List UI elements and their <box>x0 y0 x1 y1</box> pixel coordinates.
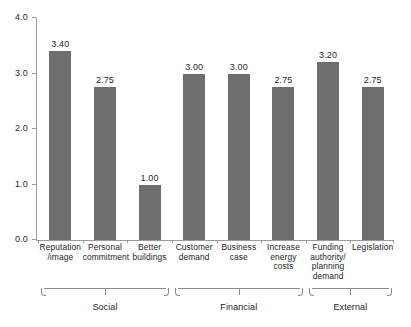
bar-value-label: 1.00 <box>141 173 159 183</box>
bar: 3.40 <box>49 51 71 240</box>
category-label: Personalcommitment <box>83 243 128 262</box>
category-label: Betterbuildings <box>127 243 172 262</box>
bar-value-label: 3.20 <box>319 50 337 60</box>
y-tick-label: 2.0 <box>15 123 28 133</box>
bar: 2.75 <box>94 87 116 240</box>
brace-cap-right <box>298 288 303 296</box>
brace-stem <box>350 288 351 295</box>
x-axis-category-labels: Reputation/imagePersonalcommitmentBetter… <box>36 243 393 291</box>
y-tick-label: 1.0 <box>15 179 28 189</box>
brace-cap-right <box>387 288 392 296</box>
y-axis-line <box>36 18 37 240</box>
category-label-line: case <box>217 253 262 263</box>
category-label: Customerdemand <box>172 243 217 262</box>
y-tick-label: 3.0 <box>15 68 28 78</box>
brace-cap-right <box>164 288 169 296</box>
bar: 2.75 <box>272 87 294 240</box>
bar: 2.75 <box>362 87 384 240</box>
group-bracket: Financial <box>175 288 303 312</box>
y-tick: 0.0 <box>32 239 36 240</box>
group-label: External <box>309 302 392 312</box>
y-tick: 2.0 <box>32 128 36 129</box>
brace-icon <box>175 288 303 299</box>
category-label-line: Legislation <box>350 243 395 253</box>
category-label-line: /image <box>38 253 83 263</box>
y-tick-label: 0.0 <box>15 234 28 244</box>
bar: 3.20 <box>317 62 339 240</box>
bar: 3.00 <box>183 74 205 241</box>
brace-cap-left <box>309 288 314 296</box>
bar-value-label: 3.00 <box>185 62 203 72</box>
brace-cap-left <box>175 288 180 296</box>
group-bracket: Social <box>41 288 169 312</box>
y-tick: 4.0 <box>32 17 36 18</box>
category-label: Businesscase <box>217 243 262 262</box>
x-axis-line <box>36 240 393 241</box>
category-label-line: costs <box>261 262 306 272</box>
category-label-line: demand <box>306 272 351 282</box>
group-label: Financial <box>175 302 303 312</box>
category-label: Fundingauthority/planningdemand <box>306 243 351 281</box>
bar-chart-figure: 0.01.02.03.04.0 3.402.751.003.003.002.75… <box>0 0 411 327</box>
category-label: Legislation <box>350 243 395 253</box>
brace-icon <box>41 288 169 299</box>
category-label-line: buildings <box>127 253 172 263</box>
brace-stem <box>105 288 106 295</box>
bar-value-label: 3.40 <box>51 39 69 49</box>
y-tick: 1.0 <box>32 184 36 185</box>
category-label: Increaseenergycosts <box>261 243 306 272</box>
category-label-line: demand <box>172 253 217 263</box>
brace-stem <box>239 288 240 295</box>
group-brackets: SocialFinancialExternal <box>36 288 393 324</box>
plot-area: 0.01.02.03.04.0 3.402.751.003.003.002.75… <box>36 18 393 240</box>
bar-value-label: 2.75 <box>364 75 382 85</box>
group-label: Social <box>41 302 169 312</box>
category-label: Reputation/image <box>38 243 83 262</box>
category-label-line: commitment <box>83 253 128 263</box>
brace-cap-left <box>41 288 46 296</box>
brace-icon <box>309 288 392 299</box>
group-bracket: External <box>309 288 392 312</box>
y-tick-label: 4.0 <box>15 12 28 22</box>
bar: 1.00 <box>139 185 161 241</box>
bar: 3.00 <box>228 74 250 241</box>
y-tick: 3.0 <box>32 73 36 74</box>
bar-value-label: 2.75 <box>274 75 292 85</box>
bar-value-label: 2.75 <box>96 75 114 85</box>
bar-value-label: 3.00 <box>230 62 248 72</box>
